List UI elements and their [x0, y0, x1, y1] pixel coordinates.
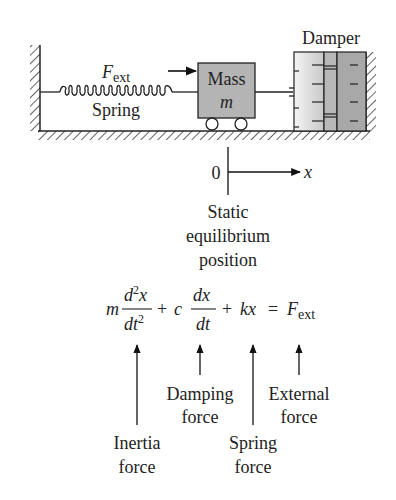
mass-label: Mass [207, 69, 245, 89]
left-wall [30, 45, 40, 131]
damper-rod [255, 88, 300, 96]
force-label: Fext [101, 62, 130, 85]
svg-text:dx: dx [193, 285, 210, 305]
external-force-label-line2: force [281, 407, 318, 427]
inertia-force-label-line1: Inertia [114, 433, 161, 453]
position-axis [228, 147, 300, 195]
origin-label: 0 [212, 163, 221, 183]
axis-label: x [303, 162, 312, 182]
svg-text:+: + [222, 299, 232, 319]
external-force-label-line1: External [269, 384, 330, 404]
svg-text:c: c [174, 299, 182, 319]
damping-force-label-line2: force [182, 407, 219, 427]
floor [38, 131, 370, 140]
svg-text:dt2: dt2 [124, 312, 144, 334]
svg-text:d2x: d2x [124, 283, 147, 305]
wheel-icon [235, 118, 247, 130]
mass-spring-damper-diagram: Fext Spring Mass m [0, 0, 396, 500]
spring-force-label-line2: force [235, 457, 272, 477]
inertia-force-label-line2: force [119, 457, 156, 477]
damper-label: Damper [302, 28, 360, 48]
equation-of-motion: m d2x dt2 + c dx dt + kx = Fext [106, 283, 315, 334]
svg-text:kx: kx [240, 299, 256, 319]
svg-text:=: = [268, 299, 278, 319]
svg-text:dt: dt [196, 314, 211, 334]
equilibrium-label-line2: equilibrium [186, 226, 270, 246]
equilibrium-label-line3: position [199, 250, 257, 270]
damping-force-label-line1: Damping [167, 384, 234, 404]
right-wall [366, 52, 376, 132]
svg-text:+: + [157, 299, 167, 319]
damper [294, 52, 366, 131]
mass-symbol: m [220, 92, 233, 112]
svg-text:m: m [106, 299, 119, 319]
spring-label: Spring [92, 100, 140, 120]
equilibrium-label-line1: Static [208, 202, 249, 222]
svg-text:Fext: Fext [286, 299, 315, 322]
spring-force-label-line1: Spring [229, 433, 277, 453]
wheel-icon [206, 118, 218, 130]
